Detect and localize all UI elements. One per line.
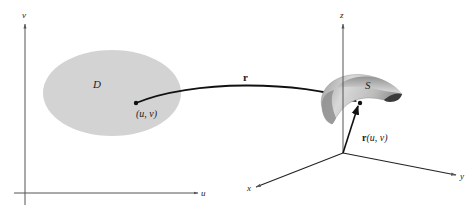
u-axis-label: u xyxy=(201,188,206,198)
position-vector-label: r(u, v) xyxy=(362,132,388,144)
surface-s-label: S xyxy=(365,79,371,91)
region-d xyxy=(43,50,181,136)
position-vector xyxy=(343,106,358,153)
x-axis xyxy=(256,153,343,187)
x-axis-label: x xyxy=(246,183,251,193)
vector-label-args: (u, v) xyxy=(366,132,388,144)
region-d-label: D xyxy=(92,78,101,90)
mapping-label: r xyxy=(243,71,248,83)
z-axis-label: z xyxy=(339,10,344,20)
point-on-surface xyxy=(358,101,362,105)
v-axis-label: v xyxy=(22,10,26,20)
point-uv-label: (u, v) xyxy=(136,108,158,120)
y-axis xyxy=(343,153,456,175)
parametric-surface-diagram: v u D (u, v) r S z x y xyxy=(0,0,476,215)
y-axis-label: y xyxy=(459,171,464,181)
surface-s: S xyxy=(321,74,402,124)
uv-plane: v u D (u, v) xyxy=(14,10,206,205)
